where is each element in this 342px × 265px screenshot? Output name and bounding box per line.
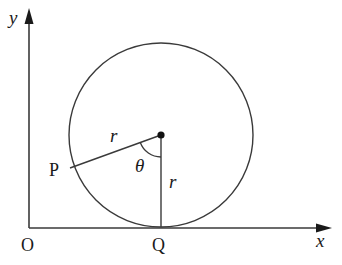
origin-label: O <box>21 235 34 255</box>
diagram-canvas: y x O Q P r r θ <box>0 0 342 265</box>
y-axis <box>25 8 34 228</box>
circle-rolling-diagram: y x O Q P r r θ <box>0 0 342 265</box>
angle-theta-label: θ <box>135 155 144 176</box>
radius-Q-label: r <box>169 171 177 192</box>
y-axis-arrow-icon <box>25 8 34 24</box>
x-axis-label: x <box>315 230 325 251</box>
y-axis-label: y <box>7 7 18 28</box>
circle-center-dot <box>157 131 164 138</box>
point-Q-label: Q <box>152 235 165 255</box>
point-P-label: P <box>49 160 59 180</box>
radius-P-label: r <box>110 125 118 146</box>
